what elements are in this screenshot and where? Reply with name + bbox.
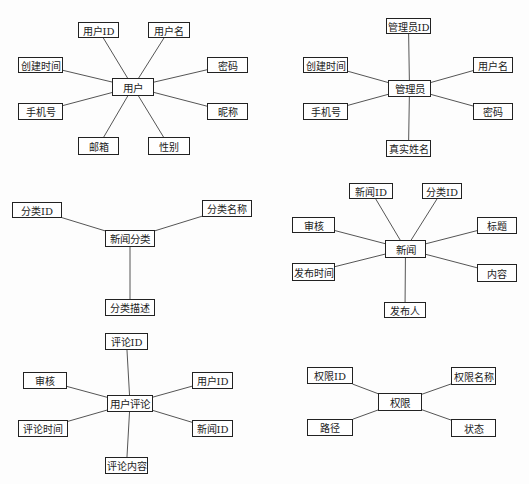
connector-admin-2: [431, 71, 473, 83]
attribute-admin: 用户名: [473, 57, 513, 73]
connector-user-4: [63, 93, 112, 106]
connector-permission-0: [352, 384, 378, 394]
attribute-admin: 真实姓名: [386, 140, 431, 157]
connector-admin-4: [431, 94, 473, 106]
attribute-user: 性别: [148, 137, 190, 155]
connector-user-1: [139, 38, 164, 78]
attribute-user_comment: 评论时间: [18, 420, 68, 437]
attribute-user_comment: 新闻ID: [192, 420, 233, 437]
attribute-permission: 权限名称: [451, 367, 496, 385]
attribute-user: 用户ID: [78, 22, 119, 38]
attribute-news: 内容: [477, 264, 517, 282]
entity-user_comment: 用户评论: [107, 395, 153, 412]
connector-user_comment-4: [153, 410, 192, 422]
connector-user-2: [63, 70, 112, 82]
entity-news_category: 新闻分类: [105, 230, 155, 247]
connector-permission-3: [422, 410, 451, 420]
attribute-news: 发布人: [384, 302, 426, 318]
attribute-news: 分类ID: [422, 183, 462, 199]
connector-news_category-1: [155, 216, 202, 231]
attribute-news: 审核: [292, 217, 335, 233]
attribute-user_comment: 审核: [23, 372, 67, 389]
attribute-admin: 密码: [473, 103, 513, 120]
connector-user-5: [154, 92, 207, 106]
connector-permission-2: [353, 410, 378, 419]
attribute-user_comment: 评论内容: [105, 457, 148, 474]
connector-user_comment-1: [67, 386, 107, 397]
attribute-news_category: 分类ID: [12, 202, 62, 218]
attribute-news: 新闻ID: [349, 183, 393, 199]
attribute-user: 手机号: [18, 103, 63, 120]
attribute-permission: 状态: [451, 419, 496, 437]
connector-user-3: [154, 70, 207, 82]
attribute-user: 昵称: [207, 103, 248, 120]
attribute-admin: 管理员ID: [386, 18, 431, 34]
attribute-permission: 路径: [307, 419, 353, 436]
entity-news: 新闻: [385, 240, 426, 258]
connector-news-1: [411, 199, 437, 240]
connector-admin-1: [348, 71, 388, 82]
connector-news-0: [376, 199, 400, 240]
connector-user-7: [138, 96, 163, 137]
connector-user_comment-5: [127, 412, 130, 457]
entity-user: 用户: [112, 78, 154, 96]
attribute-user: 邮箱: [78, 137, 119, 155]
connector-admin-5: [409, 97, 410, 140]
attribute-news: 标题: [477, 217, 517, 234]
connector-news-3: [426, 231, 477, 244]
er-diagram-canvas: 用户用户ID用户名创建时间密码手机号昵称邮箱性别管理员管理员ID创建时间用户名手…: [0, 0, 529, 484]
connector-lines: [0, 0, 529, 484]
attribute-user: 创建时间: [18, 57, 63, 73]
attribute-user: 用户名: [148, 22, 190, 38]
attribute-news_category: 分类描述: [105, 299, 155, 316]
attribute-user: 密码: [207, 57, 248, 73]
connector-user_comment-3: [68, 410, 107, 421]
connector-user-6: [104, 96, 128, 137]
connector-news_category-0: [62, 218, 105, 231]
attribute-admin: 手机号: [303, 103, 348, 120]
entity-admin: 管理员: [388, 80, 431, 97]
entity-permission: 权限: [378, 393, 422, 411]
attribute-news_category: 分类名称: [202, 200, 252, 217]
attribute-admin: 创建时间: [303, 57, 348, 73]
connector-user_comment-2: [153, 386, 192, 397]
connector-permission-1: [422, 384, 451, 394]
connector-news-2: [335, 231, 385, 244]
connector-user-0: [103, 38, 127, 78]
attribute-permission: 权限ID: [307, 367, 353, 384]
attribute-user_comment: 评论ID: [105, 333, 148, 350]
connector-news-5: [426, 254, 477, 267]
attribute-news: 发布时间: [292, 263, 335, 281]
connector-admin-3: [348, 94, 388, 105]
connector-news-4: [335, 254, 385, 267]
connector-admin-0: [409, 34, 410, 80]
attribute-user_comment: 用户ID: [192, 372, 233, 389]
connector-user_comment-0: [127, 350, 130, 395]
